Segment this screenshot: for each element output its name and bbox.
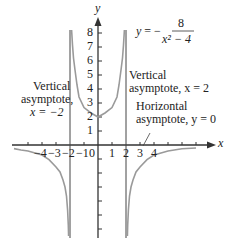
curve-left-branch (14, 149, 69, 236)
x-tick-label-0: 0 (89, 147, 95, 160)
x-tick-label-neg1: −1 (76, 147, 89, 160)
horizontal-asymptote-leader (143, 133, 150, 146)
y-tick-label-4: 4 (87, 82, 93, 95)
y-tick-label-6: 6 (87, 54, 93, 67)
x-tick-label-neg3: −3 (48, 147, 61, 160)
y-tick-label-2: 2 (87, 110, 93, 123)
equation-lhs: y = − (136, 25, 161, 38)
equation-denominator: x² − 4 (162, 33, 191, 46)
y-tick-label-8: 8 (87, 26, 93, 39)
y-tick-label-5: 5 (87, 68, 93, 81)
x-tick-label-1: 1 (109, 147, 115, 160)
x-axis-label: x (218, 137, 223, 150)
y-axis-arrow-icon (95, 17, 102, 26)
x-tick-label-2: 2 (123, 147, 129, 160)
x-tick-label-neg2: −2 (62, 147, 75, 160)
ha-label-line2: asymptote, y = 0 (136, 113, 216, 126)
x-tick-label-3: 3 (137, 147, 143, 160)
y-axis-label: y (95, 2, 100, 15)
x-tick-label-neg4: −4 (34, 147, 47, 160)
va-right-label-line2: asymptote, x = 2 (129, 82, 209, 95)
equation-numerator: 8 (178, 17, 184, 30)
x-axis-arrow-icon (207, 142, 216, 149)
curve-right-branch (127, 148, 196, 236)
x-tick-label-4: 4 (151, 147, 157, 160)
equation-equals: = − (141, 24, 161, 38)
va-left-label-line3: x = −2 (30, 106, 64, 119)
y-tick-label-3: 3 (87, 96, 93, 109)
y-tick-label-1: 1 (87, 124, 93, 137)
y-tick-label-7: 7 (87, 40, 93, 53)
